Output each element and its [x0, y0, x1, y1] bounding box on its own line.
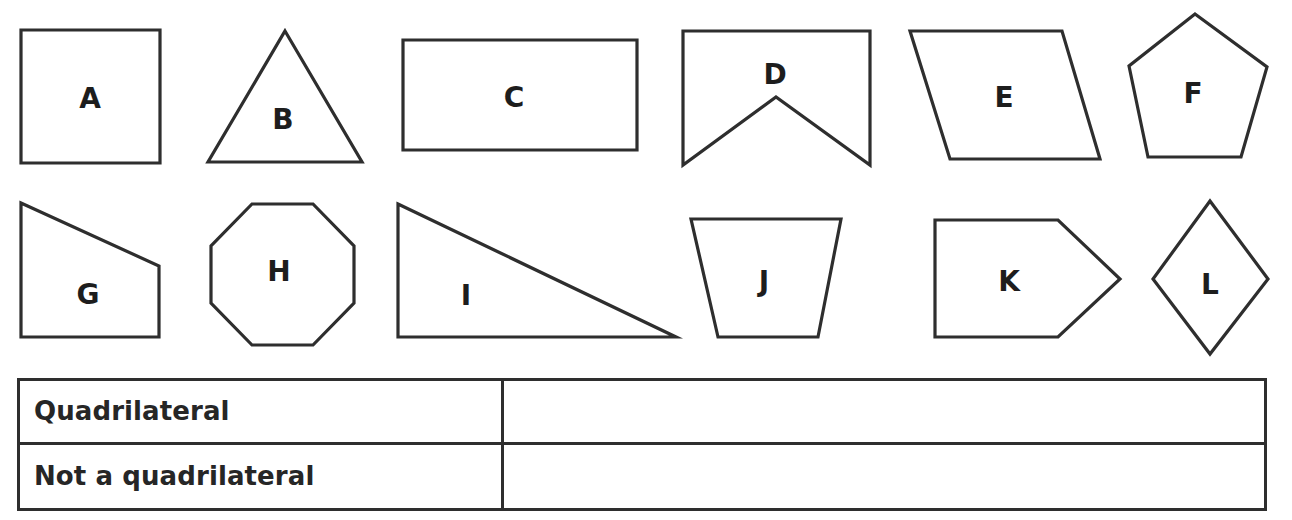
shape-group[interactable]: J — [691, 219, 841, 337]
shape-h-label: H — [267, 255, 290, 288]
shape-d-concave-banner[interactable] — [683, 31, 870, 165]
shape-f-label: F — [1183, 77, 1202, 110]
shapes-gallery: A B C D E F G — [0, 0, 1292, 372]
shape-d-label: D — [763, 58, 786, 91]
shape-e-label: E — [994, 81, 1013, 114]
shape-group[interactable]: E — [910, 31, 1100, 159]
row-label-not-a-quadrilateral: Not a quadrilateral — [20, 445, 504, 509]
shape-group[interactable]: L — [1153, 201, 1268, 354]
shape-group[interactable]: K — [935, 220, 1120, 337]
shape-j-label: J — [757, 265, 769, 298]
shape-group[interactable]: A — [21, 30, 160, 163]
shape-group[interactable]: C — [403, 40, 637, 150]
answer-cell-quadrilateral[interactable] — [504, 381, 1264, 442]
shape-b-label: B — [272, 103, 293, 136]
shape-l-label: L — [1201, 268, 1219, 301]
shape-group[interactable]: D — [683, 31, 870, 165]
shape-group[interactable]: H — [211, 204, 354, 345]
shape-g-label: G — [77, 278, 100, 311]
row-label-quadrilateral: Quadrilateral — [20, 381, 504, 442]
shapes-canvas: A B C D E F G — [0, 0, 1292, 372]
shape-group[interactable]: I — [398, 204, 676, 337]
shape-a-label: A — [79, 82, 101, 115]
shape-group[interactable]: G — [21, 203, 159, 337]
sorting-table: Quadrilateral Not a quadrilateral — [17, 378, 1267, 511]
shape-b-triangle[interactable] — [208, 31, 362, 162]
shape-i-right-triangle[interactable] — [398, 204, 676, 337]
shape-group[interactable]: F — [1129, 14, 1267, 157]
shape-c-label: C — [504, 81, 525, 114]
shape-k-label: K — [998, 265, 1021, 298]
answer-cell-not-a-quadrilateral[interactable] — [504, 445, 1264, 509]
table-row: Not a quadrilateral — [20, 445, 1264, 509]
shape-sorting-worksheet: A B C D E F G — [0, 0, 1292, 520]
table-row: Quadrilateral — [20, 381, 1264, 445]
shape-group[interactable]: B — [208, 31, 362, 162]
shape-g-right-trapezoid[interactable] — [21, 203, 159, 337]
shape-k-arrow-pentagon[interactable] — [935, 220, 1120, 337]
shape-i-label: I — [461, 279, 471, 312]
